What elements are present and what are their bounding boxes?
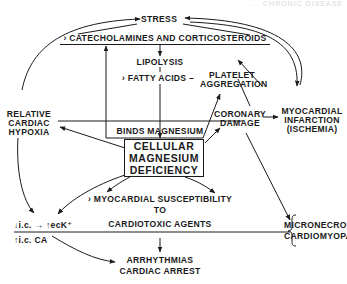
node-catecholamines: › CATECHOLAMINES AND CORTICOSTEROIDS <box>60 33 270 45</box>
node-fatty-acids: › FATTY ACIDS – <box>122 73 194 83</box>
node-cellular-magnesium-deficiency: CELLULAR MAGNESIUM DEFICIENCY <box>124 139 204 177</box>
node-lipolysis: LIPOLYSIS <box>135 57 185 67</box>
diagram-canvas: ... CHRONIC DISEASE <box>0 0 347 284</box>
node-stress: STRESS <box>141 14 177 24</box>
node-binds-magnesium: BINDS MAGNESIUM <box>115 126 205 136</box>
